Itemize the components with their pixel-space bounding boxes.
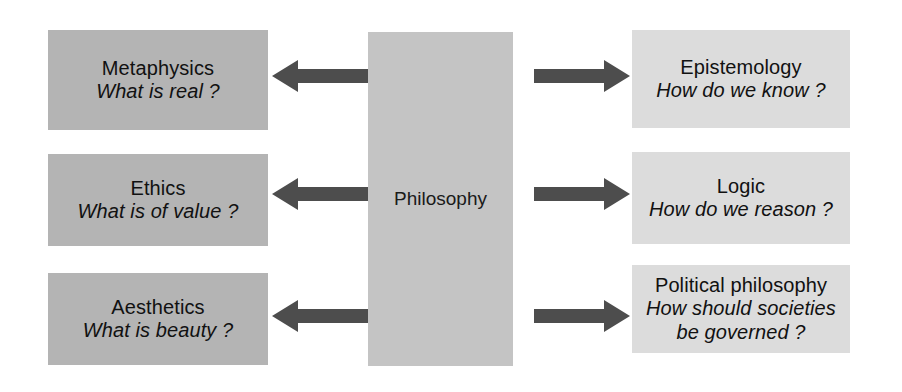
- node-ethics-question: What is of value ?: [78, 200, 239, 223]
- node-epistemology: Epistemology How do we know ?: [632, 30, 850, 128]
- node-logic: Logic How do we reason ?: [632, 152, 850, 244]
- arrow-right-icon-epistemology: [534, 58, 630, 94]
- node-political-philosophy-title: Political philosophy: [655, 274, 827, 297]
- node-metaphysics: Metaphysics What is real ?: [48, 30, 268, 130]
- node-aesthetics-title: Aesthetics: [111, 296, 204, 319]
- node-ethics-title: Ethics: [130, 177, 185, 200]
- arrow-right-icon-political-philosophy: [534, 298, 630, 334]
- node-logic-title: Logic: [717, 175, 765, 198]
- node-philosophy-label: Philosophy: [394, 188, 487, 210]
- node-epistemology-title: Epistemology: [680, 56, 801, 79]
- node-political-philosophy-question-line-2: be governed ?: [646, 321, 836, 344]
- node-aesthetics-question: What is beauty ?: [83, 319, 234, 342]
- philosophy-branches-diagram: Metaphysics What is real ? Ethics What i…: [0, 0, 902, 392]
- node-political-philosophy: Political philosophy How should societie…: [632, 265, 850, 353]
- node-metaphysics-question: What is real ?: [96, 80, 220, 103]
- node-aesthetics: Aesthetics What is beauty ?: [48, 273, 268, 365]
- arrow-left-icon-aesthetics: [272, 298, 370, 334]
- arrow-left-icon-metaphysics: [272, 58, 370, 94]
- node-political-philosophy-question-line-1: How should societies: [646, 297, 836, 319]
- node-metaphysics-title: Metaphysics: [102, 57, 214, 80]
- node-epistemology-question: How do we know ?: [656, 79, 825, 102]
- arrow-right-icon-logic: [534, 176, 630, 212]
- node-political-philosophy-question: How should societies be governed ?: [646, 297, 836, 343]
- node-philosophy-center: Philosophy: [368, 32, 513, 366]
- node-ethics: Ethics What is of value ?: [48, 154, 268, 246]
- arrow-left-icon-ethics: [272, 176, 370, 212]
- node-logic-question: How do we reason ?: [649, 198, 833, 221]
